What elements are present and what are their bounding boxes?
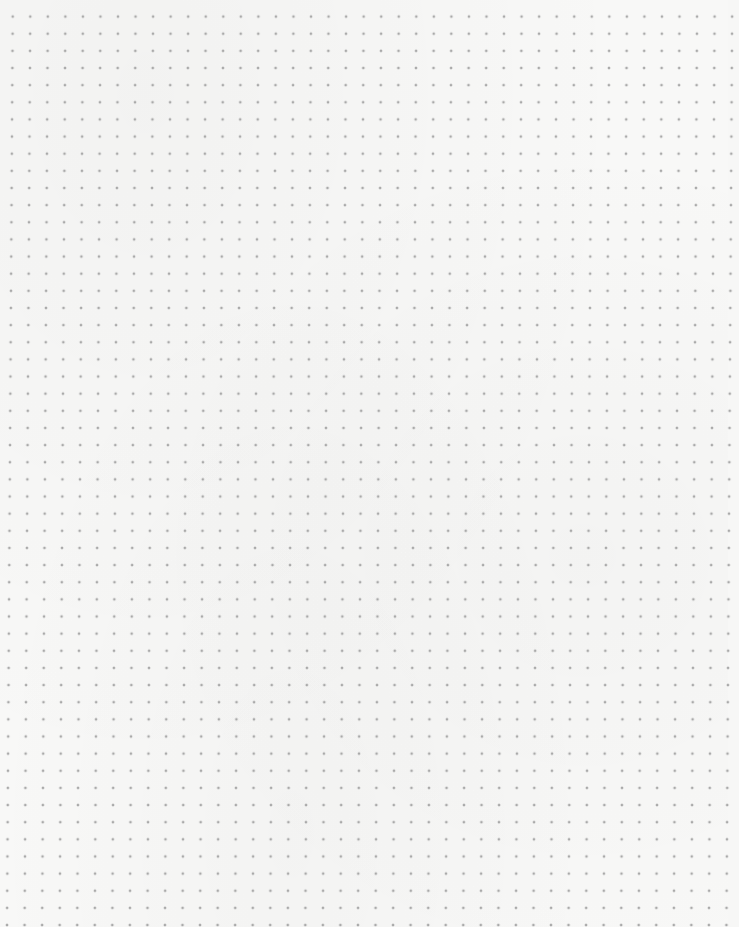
- dot-grid-pattern: [0, 8, 739, 927]
